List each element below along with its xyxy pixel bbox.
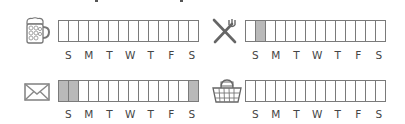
beer-mug-icon	[24, 17, 50, 45]
day-labels: SMTWTFS	[58, 108, 202, 120]
day-label: S	[182, 108, 203, 120]
day-label: W	[307, 108, 328, 120]
day-label: T	[140, 49, 161, 61]
day-slot[interactable]	[316, 20, 326, 42]
day-slot[interactable]	[316, 80, 326, 102]
day-slot[interactable]	[326, 20, 336, 42]
day-label: M	[79, 108, 100, 120]
day-slot[interactable]	[306, 80, 316, 102]
day-slot[interactable]	[286, 80, 296, 102]
day-label: S	[58, 49, 79, 61]
day-label: S	[245, 108, 266, 120]
day-slot[interactable]	[326, 80, 336, 102]
day-slot[interactable]	[366, 20, 376, 42]
day-label: M	[266, 49, 287, 61]
day-slot-bar	[245, 80, 386, 102]
day-label: F	[348, 108, 369, 120]
day-slot[interactable]	[276, 80, 286, 102]
day-label: M	[266, 108, 287, 120]
day-slot[interactable]	[149, 80, 159, 102]
day-slot[interactable]	[69, 80, 79, 102]
day-slot[interactable]	[99, 20, 109, 42]
day-slot[interactable]	[306, 20, 316, 42]
envelope-icon	[24, 83, 50, 101]
cropped-text-fragment	[180, 0, 183, 2]
day-slot[interactable]	[159, 20, 169, 42]
day-slot[interactable]	[286, 20, 296, 42]
day-slot[interactable]	[179, 80, 189, 102]
day-slot[interactable]	[266, 20, 276, 42]
day-slot[interactable]	[256, 80, 266, 102]
day-slot[interactable]	[346, 20, 356, 42]
day-slot[interactable]	[179, 20, 189, 42]
day-slot[interactable]	[189, 80, 199, 102]
day-slot[interactable]	[246, 20, 256, 42]
day-slot[interactable]	[109, 80, 119, 102]
day-slot[interactable]	[356, 20, 366, 42]
day-slot[interactable]	[256, 20, 266, 42]
day-slot[interactable]	[276, 20, 286, 42]
day-label: M	[79, 49, 100, 61]
day-labels: SMTWTFS	[245, 108, 389, 120]
day-slot[interactable]	[149, 20, 159, 42]
day-label: T	[286, 108, 307, 120]
day-slot[interactable]	[346, 80, 356, 102]
day-label: W	[120, 108, 141, 120]
day-label: S	[369, 108, 390, 120]
day-label: T	[99, 49, 120, 61]
day-label: W	[307, 49, 328, 61]
day-slot[interactable]	[169, 20, 179, 42]
day-label: S	[58, 108, 79, 120]
day-slot[interactable]	[366, 80, 376, 102]
day-slot[interactable]	[246, 80, 256, 102]
day-slot[interactable]	[296, 80, 306, 102]
day-slot[interactable]	[129, 20, 139, 42]
day-label: F	[161, 49, 182, 61]
day-label: T	[327, 49, 348, 61]
day-slot-bar	[58, 80, 199, 102]
day-label: S	[245, 49, 266, 61]
day-slot-bar	[245, 20, 386, 42]
day-slot[interactable]	[356, 80, 366, 102]
day-slot[interactable]	[266, 80, 276, 102]
day-slot[interactable]	[139, 20, 149, 42]
day-slot[interactable]	[59, 80, 69, 102]
day-slot[interactable]	[296, 20, 306, 42]
day-slot[interactable]	[59, 20, 69, 42]
day-slot[interactable]	[336, 20, 346, 42]
day-label: W	[120, 49, 141, 61]
day-slot-bar	[58, 20, 199, 42]
day-slot[interactable]	[376, 20, 386, 42]
day-slot[interactable]	[109, 20, 119, 42]
day-slot[interactable]	[189, 20, 199, 42]
day-slot[interactable]	[79, 80, 89, 102]
day-slot[interactable]	[119, 20, 129, 42]
day-slot[interactable]	[139, 80, 149, 102]
day-label: T	[99, 108, 120, 120]
day-label: F	[348, 49, 369, 61]
day-label: T	[140, 108, 161, 120]
day-slot[interactable]	[336, 80, 346, 102]
day-labels: SMTWTFS	[245, 49, 389, 61]
day-slot[interactable]	[69, 20, 79, 42]
day-label: T	[327, 108, 348, 120]
day-label: S	[369, 49, 390, 61]
day-slot[interactable]	[89, 20, 99, 42]
day-slot[interactable]	[129, 80, 139, 102]
day-slot[interactable]	[376, 80, 386, 102]
day-slot[interactable]	[169, 80, 179, 102]
day-labels: SMTWTFS	[58, 49, 202, 61]
day-slot[interactable]	[159, 80, 169, 102]
basket-icon	[212, 78, 242, 104]
day-slot[interactable]	[119, 80, 129, 102]
day-label: T	[286, 49, 307, 61]
day-slot[interactable]	[89, 80, 99, 102]
day-label: F	[161, 108, 182, 120]
fork-knife-icon	[212, 18, 238, 44]
day-slot[interactable]	[79, 20, 89, 42]
day-label: S	[182, 49, 203, 61]
day-slot[interactable]	[99, 80, 109, 102]
cropped-text-fragment	[95, 0, 98, 2]
